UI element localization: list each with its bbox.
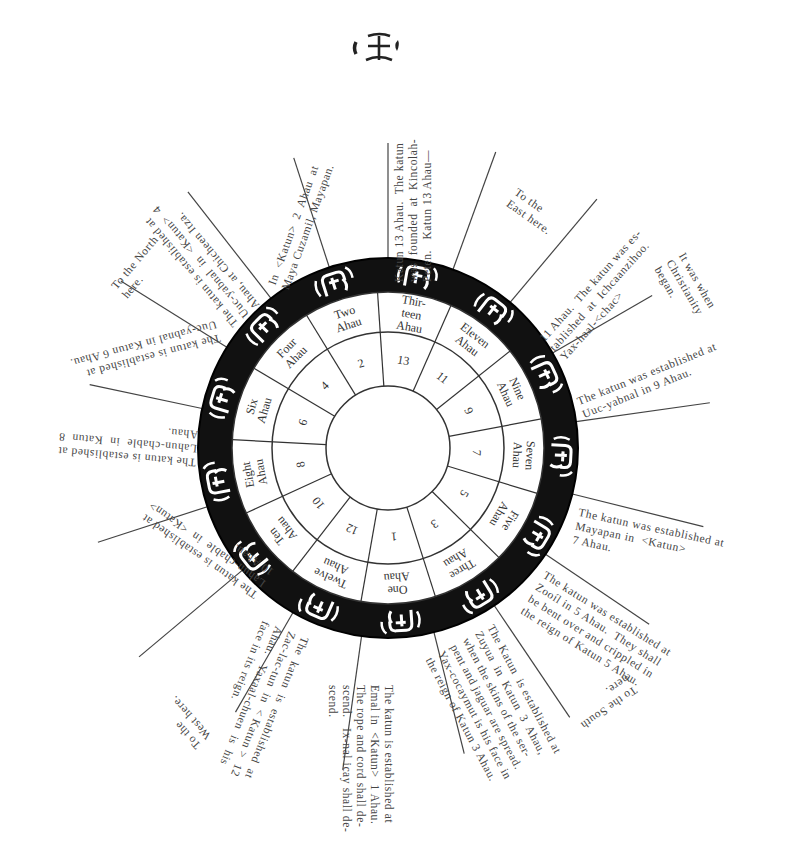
leader-line <box>90 385 202 409</box>
katun-wheel-diagram: Thir-teenAhau13ElevenAhau11NineAhau9Seve… <box>0 0 786 862</box>
annotation-katun-1: The katun is established at Emal in <Kat… <box>326 685 396 832</box>
leader-line <box>453 152 496 269</box>
center-circle <box>326 386 450 510</box>
segment-number: 1 <box>391 530 398 544</box>
segment-number: 13 <box>396 352 410 368</box>
segment-name: SevenAhau <box>510 440 539 471</box>
segment-number: 7 <box>470 449 484 456</box>
annotation-katun-13: Katun 13 Ahau. The katun was founded at … <box>392 139 434 282</box>
